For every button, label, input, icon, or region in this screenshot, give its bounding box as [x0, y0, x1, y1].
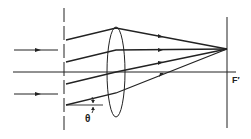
focal-point-label: F′ — [232, 75, 240, 85]
ray-4 — [66, 49, 227, 105]
ray-arrowheads — [158, 34, 164, 77]
optics-diagram — [0, 0, 251, 139]
ray-1 — [66, 28, 227, 49]
incident-arrow-upper — [14, 48, 58, 52]
angle-marker — [66, 97, 103, 113]
angle-label: θ — [85, 113, 90, 124]
ray-2 — [66, 49, 227, 62]
incident-arrow-lower — [14, 92, 58, 96]
ray-3 — [66, 49, 227, 84]
